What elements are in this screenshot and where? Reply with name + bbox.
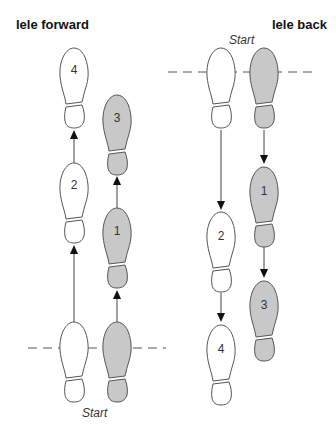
footprint-left-step-4: 4 <box>60 48 88 128</box>
footprint-back-left-step-4: 4 <box>207 325 235 405</box>
footprint-left-step-2: 2 <box>60 163 88 243</box>
footprint-right-step-1: 1 <box>103 208 131 288</box>
footprint-back-right-step-1: 1 <box>250 167 278 247</box>
footprint-back-left-start <box>207 48 235 128</box>
svg-text:1: 1 <box>114 224 121 238</box>
footprint-back-right-start <box>250 48 278 128</box>
svg-text:3: 3 <box>261 298 268 312</box>
svg-text:4: 4 <box>218 342 225 356</box>
footprint-back-right-step-3: 3 <box>250 281 278 361</box>
footwork-diagram: 4 2 3 1 1 2 <box>0 0 336 435</box>
svg-text:3: 3 <box>114 111 121 125</box>
footprint-back-left-step-2: 2 <box>207 212 235 292</box>
footprint-left-start <box>60 322 88 402</box>
footprint-right-step-3: 3 <box>103 95 131 175</box>
svg-text:4: 4 <box>71 63 78 77</box>
svg-text:2: 2 <box>218 229 225 243</box>
footprint-right-start <box>103 322 131 402</box>
svg-text:1: 1 <box>261 184 268 198</box>
svg-text:2: 2 <box>71 178 78 192</box>
